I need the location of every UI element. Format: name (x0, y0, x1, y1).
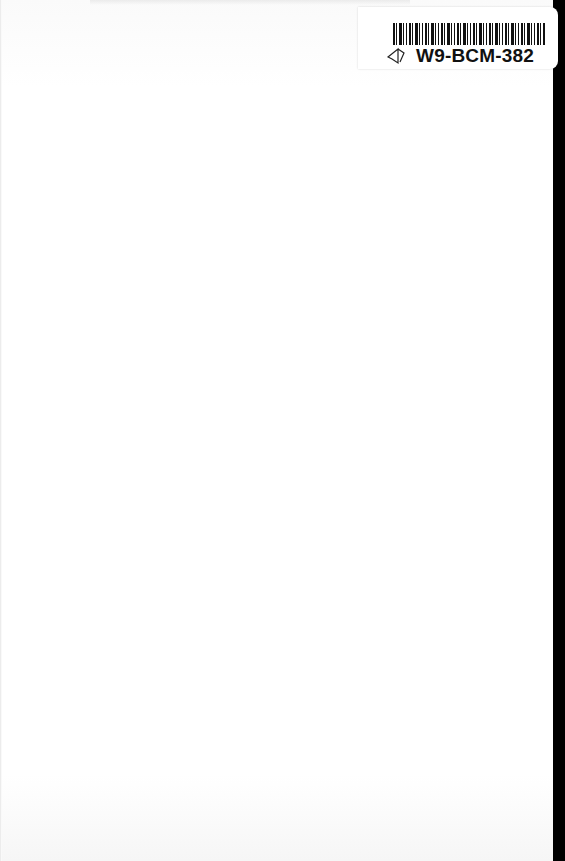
book-logo-icon (386, 47, 406, 65)
page-left-edge (0, 0, 2, 861)
barcode (393, 23, 545, 45)
scan-right-border (553, 0, 565, 861)
barcode-label: W9-BCM-382 (358, 7, 558, 69)
page-top-shadow (90, 0, 410, 5)
barcode-code-row: W9-BCM-382 (386, 45, 534, 67)
barcode-id: W9-BCM-382 (416, 45, 534, 67)
blank-page (0, 0, 553, 861)
